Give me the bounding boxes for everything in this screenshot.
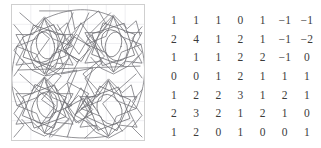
matrix-cell: 1 (252, 30, 274, 49)
matrix-row: 1 1 1 2 2 −1 0 (163, 48, 318, 67)
matrix-cell: 1 (296, 67, 318, 86)
matrix-cell: 0 (252, 122, 274, 141)
matrix-cell: 2 (207, 104, 229, 123)
geometric-figure-panel (11, 4, 145, 141)
matrix-cell: 0 (296, 104, 318, 123)
matrix-cell: 1 (163, 48, 185, 67)
matrix-cell: 1 (252, 11, 274, 30)
matrix-cell: 3 (229, 85, 251, 104)
matrix-cell: 2 (252, 104, 274, 123)
geometric-line-art (12, 5, 144, 140)
matrix-cell: 1 (163, 11, 185, 30)
matrix-cell: 1 (252, 67, 274, 86)
matrix-cell: 2 (274, 85, 296, 104)
matrix-row: 1 2 0 1 0 0 1 (163, 122, 318, 141)
matrix-cell: −1 (296, 11, 318, 30)
matrix-cell: 1 (274, 67, 296, 86)
matrix-cell: 1 (296, 85, 318, 104)
matrix-cell: 1 (163, 85, 185, 104)
matrix-cell: 2 (185, 85, 207, 104)
matrix-cell: 1 (296, 122, 318, 141)
matrix-cell: 2 (229, 30, 251, 49)
matrix-cell: 2 (185, 122, 207, 141)
figure-and-matrix-page: 1 1 1 0 1 −1 −1 2 4 1 2 1 −1 −2 1 1 1 (0, 0, 321, 148)
matrix-cell: 2 (163, 104, 185, 123)
matrix-cell: 1 (229, 104, 251, 123)
matrix-cell: 1 (207, 11, 229, 30)
matrix-cell: 2 (163, 30, 185, 49)
matrix-row: 2 4 1 2 1 −1 −2 (163, 30, 318, 49)
matrix-cell: 1 (163, 122, 185, 141)
matrix-cell: −2 (296, 30, 318, 49)
matrix-row: 0 0 1 2 1 1 1 (163, 67, 318, 86)
matrix-cell: −1 (274, 30, 296, 49)
matrix-cell: 0 (185, 67, 207, 86)
matrix-cell: −1 (274, 11, 296, 30)
matrix-cell: 1 (274, 104, 296, 123)
matrix-row: 1 2 2 3 1 2 1 (163, 85, 318, 104)
matrix-cell: 0 (163, 67, 185, 86)
matrix-row: 2 3 2 1 2 1 0 (163, 104, 318, 123)
matrix-cell: 0 (207, 122, 229, 141)
integer-matrix: 1 1 1 0 1 −1 −1 2 4 1 2 1 −1 −2 1 1 1 (163, 11, 318, 141)
matrix-cell: 2 (207, 85, 229, 104)
matrix-cell: 2 (229, 48, 251, 67)
matrix-row: 1 1 1 0 1 −1 −1 (163, 11, 318, 30)
matrix-cell: 2 (252, 48, 274, 67)
matrix-cell: 4 (185, 30, 207, 49)
matrix-cell: 0 (296, 48, 318, 67)
matrix-cell: 1 (207, 67, 229, 86)
matrix-cell: 1 (229, 122, 251, 141)
matrix-cell: 1 (185, 48, 207, 67)
matrix-cell: 0 (229, 11, 251, 30)
matrix-cell: 0 (274, 122, 296, 141)
matrix-cell: 1 (207, 30, 229, 49)
matrix-cell: 1 (207, 48, 229, 67)
matrix-cell: 1 (252, 85, 274, 104)
matrix-cell: 2 (229, 67, 251, 86)
matrix-cell: 1 (185, 11, 207, 30)
matrix-cell: 3 (185, 104, 207, 123)
matrix-cell: −1 (274, 48, 296, 67)
